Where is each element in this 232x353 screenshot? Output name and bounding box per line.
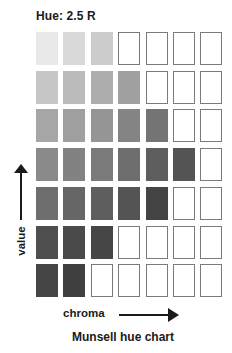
color-chip xyxy=(63,148,85,181)
chart-title: Hue: 2.5 R xyxy=(36,9,96,23)
empty-chip xyxy=(146,226,168,259)
up-arrow-icon xyxy=(14,164,28,220)
empty-chip xyxy=(173,32,195,65)
color-chip xyxy=(36,226,58,259)
empty-chip xyxy=(200,148,222,181)
color-chip xyxy=(36,71,58,104)
empty-chip xyxy=(173,109,195,142)
empty-chip xyxy=(200,264,222,297)
empty-chip xyxy=(200,71,222,104)
color-chip xyxy=(91,187,113,220)
color-chip xyxy=(63,109,85,142)
empty-chip xyxy=(200,109,222,142)
color-chip xyxy=(118,71,140,104)
color-chip xyxy=(63,264,85,297)
empty-chip xyxy=(200,187,222,220)
empty-chip xyxy=(173,187,195,220)
color-chip xyxy=(146,148,168,181)
color-chip xyxy=(36,148,58,181)
color-chip xyxy=(91,32,113,65)
empty-chip xyxy=(173,226,195,259)
empty-chip xyxy=(146,71,168,104)
color-chip xyxy=(146,187,168,220)
empty-chip xyxy=(173,71,195,104)
empty-chip xyxy=(91,264,113,297)
color-chip xyxy=(91,148,113,181)
color-chip xyxy=(36,187,58,220)
empty-chip xyxy=(118,226,140,259)
empty-chip xyxy=(146,264,168,297)
color-chip xyxy=(118,187,140,220)
color-chip xyxy=(63,187,85,220)
color-chip xyxy=(36,264,58,297)
color-chip xyxy=(36,32,58,65)
color-chip xyxy=(63,32,85,65)
color-chip xyxy=(91,226,113,259)
color-chip xyxy=(118,148,140,181)
empty-chip xyxy=(146,32,168,65)
empty-chip xyxy=(200,226,222,259)
empty-chip xyxy=(118,264,140,297)
value-axis-label: value xyxy=(15,226,27,255)
empty-chip xyxy=(200,32,222,65)
color-chip xyxy=(173,148,195,181)
color-chip xyxy=(63,71,85,104)
empty-chip xyxy=(118,32,140,65)
chroma-axis-label: chroma xyxy=(63,307,105,319)
empty-chip xyxy=(173,264,195,297)
color-chip xyxy=(91,71,113,104)
color-chip xyxy=(91,109,113,142)
right-arrow-icon xyxy=(119,308,179,322)
color-chip xyxy=(36,109,58,142)
color-chip xyxy=(146,109,168,142)
color-chip xyxy=(118,109,140,142)
chart-caption: Munsell hue chart xyxy=(72,330,174,344)
color-chip xyxy=(63,226,85,259)
